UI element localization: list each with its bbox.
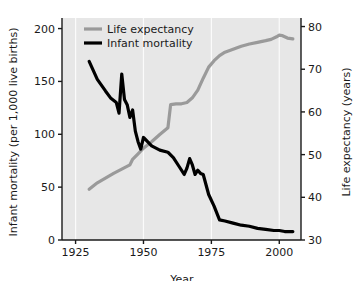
x-axis-tick-label: 1975	[197, 246, 225, 259]
x-axis-tick-label: 1950	[129, 246, 157, 259]
x-axis-tick-label: 2000	[265, 246, 293, 259]
right-axis-tick-label: 70	[308, 63, 322, 76]
plot-area-background	[62, 18, 301, 240]
left-y-axis-title: Infant mortality (per 1,000 live births)	[7, 28, 20, 237]
left-axis-tick-label: 200	[34, 23, 55, 36]
right-axis-tick-label: 40	[308, 191, 322, 204]
legend-label-life-expectancy: Life expectancy	[107, 23, 194, 36]
right-axis-tick-label: 50	[308, 149, 322, 162]
left-axis-tick-label: 0	[48, 234, 55, 247]
x-axis-tick-label: 1925	[62, 246, 90, 259]
right-axis-tick-label: 30	[308, 234, 322, 247]
left-axis-tick-label: 50	[41, 181, 55, 194]
dual-axis-line-chart: 050100150200 304050607080 19251950197520…	[0, 0, 364, 297]
legend-label-infant-mortality: Infant mortality	[107, 37, 193, 50]
chart-figure: 050100150200 304050607080 19251950197520…	[0, 0, 364, 297]
right-axis-tick-label: 80	[308, 21, 322, 34]
left-axis-tick-label: 150	[34, 75, 55, 88]
right-y-axis-title: Life expectancy (years)	[340, 67, 353, 196]
x-axis-title: Year	[169, 273, 194, 286]
left-axis-tick-label: 100	[34, 128, 55, 141]
right-axis-tick-label: 60	[308, 106, 322, 119]
